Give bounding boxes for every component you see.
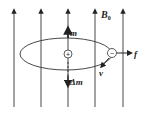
negative-charge-label: − <box>110 50 114 57</box>
magnetic-moment-diagram: + − m Δm f v B0 <box>0 0 146 113</box>
force-label: f <box>134 49 138 59</box>
field-lines <box>14 11 123 107</box>
velocity-label: v <box>99 68 104 78</box>
moment-label: m <box>70 28 77 38</box>
positive-charge-label: + <box>66 51 70 58</box>
field-label: B0 <box>100 9 111 21</box>
delta-moment-label: Δm <box>69 77 83 87</box>
velocity-arrow-icon <box>102 58 109 66</box>
